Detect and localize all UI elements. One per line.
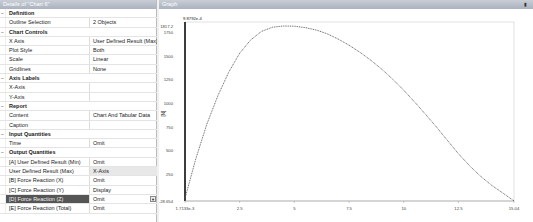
property-name: Gridlines xyxy=(6,65,90,73)
plot-frame xyxy=(185,22,514,201)
property-value-text: Omit xyxy=(93,196,105,202)
property-row[interactable]: ContentChart And Tabular Data xyxy=(0,111,157,120)
category-row[interactable]: −Definition xyxy=(0,9,157,18)
graph-panel-title: Graph xyxy=(162,1,177,7)
property-row[interactable]: [B] Force Reaction (X)Omit xyxy=(0,176,157,185)
category-row[interactable]: −Output Quantities xyxy=(0,148,157,157)
property-row[interactable]: Y-Axis xyxy=(0,93,157,102)
y-tick-label: 750 xyxy=(166,125,174,130)
property-value[interactable]: None xyxy=(90,65,157,73)
property-value[interactable]: 2 Objects xyxy=(90,18,157,26)
pin-icon[interactable]: ▮ xyxy=(524,0,527,9)
property-name: Plot Style xyxy=(6,46,90,54)
property-value-text: 2 Objects xyxy=(93,19,116,25)
y-tick-label: 1000 xyxy=(164,101,174,106)
property-value[interactable]: Omit xyxy=(90,158,157,166)
property-row[interactable]: User Defined Result (Max)X-Axis xyxy=(0,167,157,176)
x-tick-label: 12.5 xyxy=(454,206,463,211)
y-tick-label: 1817.2 xyxy=(160,24,173,29)
property-value[interactable]: Omit xyxy=(90,176,157,184)
details-panel: Details of "Chart 6" −DefinitionOutline … xyxy=(0,0,157,222)
property-value-text: Linear xyxy=(93,56,108,62)
dropdown-arrow-icon[interactable]: ▼ xyxy=(150,196,156,203)
property-value-text: Omit xyxy=(93,140,105,146)
series-line xyxy=(185,26,514,201)
property-value-text: Omit xyxy=(93,205,105,211)
property-value-text: Omit xyxy=(93,159,105,165)
category-label: Definition xyxy=(6,9,156,17)
property-value-text: Omit xyxy=(93,177,105,183)
property-name: Outline Selection xyxy=(6,18,90,26)
category-label: Axis Labels xyxy=(6,74,156,82)
top-label: 9.8792e-4 xyxy=(183,16,203,21)
property-value[interactable]: User Defined Result (Max) xyxy=(90,37,157,45)
property-value[interactable]: Chart And Tabular Data xyxy=(90,111,157,119)
x-tick-label: 7.5 xyxy=(346,206,352,211)
property-row[interactable]: GridlinesNone xyxy=(0,65,157,74)
property-value-text: Display xyxy=(93,187,111,193)
details-panel-title: Details of "Chart 6" xyxy=(0,0,156,9)
y-tick-label: 500 xyxy=(166,148,174,153)
property-row[interactable]: [A] User Defined Result (Min)Omit xyxy=(0,158,157,167)
property-value[interactable]: X-Axis xyxy=(90,167,157,175)
category-row[interactable]: −Input Quantities xyxy=(0,130,157,139)
y-tick-label: 250 xyxy=(166,172,174,177)
property-name: User Defined Result (Max) xyxy=(6,167,90,175)
y-tick-label: 1750 xyxy=(164,30,174,35)
property-name: Caption xyxy=(6,121,90,129)
property-value[interactable] xyxy=(90,93,157,101)
x-tick-label: 2.5 xyxy=(237,206,243,211)
property-value[interactable]: Display xyxy=(90,186,157,194)
property-name: [C] Force Reaction (Y) xyxy=(6,186,90,194)
property-row[interactable]: TimeOmit xyxy=(0,139,157,148)
property-row[interactable]: Outline Selection2 Objects xyxy=(0,18,157,27)
property-row[interactable]: Plot StyleBoth xyxy=(0,46,157,55)
property-name: [D] Force Reaction (Z) xyxy=(6,195,90,203)
category-row[interactable]: −Report xyxy=(0,102,157,111)
y-tick-label: 1250 xyxy=(164,77,174,82)
details-table: −DefinitionOutline Selection2 Objects−Ch… xyxy=(0,9,157,214)
property-name: [E] Force Reaction (Total) xyxy=(6,204,90,212)
property-name: Content xyxy=(6,111,90,119)
property-name: X-Axis xyxy=(6,83,90,91)
category-row[interactable]: −Axis Labels xyxy=(0,74,157,83)
category-label: Output Quantities xyxy=(6,148,156,156)
property-name: [B] Force Reaction (X) xyxy=(6,176,90,184)
property-row[interactable]: Caption xyxy=(0,121,157,130)
property-row[interactable]: [E] Force Reaction (Total)Omit xyxy=(0,204,157,213)
property-value[interactable]: Linear xyxy=(90,55,157,63)
property-value[interactable]: Omit▼ xyxy=(90,195,157,203)
x-tick-label: 1.7133e-3 xyxy=(176,206,196,211)
category-row[interactable]: −Chart Controls xyxy=(0,28,157,37)
property-value-text: None xyxy=(93,66,106,72)
property-row[interactable]: ScaleLinear xyxy=(0,55,157,64)
x-tick-label: 15.04 xyxy=(509,206,520,211)
graph-panel: Graph ▮ 9.8792e-4-28.6542505007501000125… xyxy=(159,0,533,222)
property-name: Scale xyxy=(6,55,90,63)
category-label: Report xyxy=(6,102,156,110)
x-tick-label: 10 xyxy=(401,206,406,211)
x-tick-label: 5 xyxy=(293,206,296,211)
property-name: [A] User Defined Result (Min) xyxy=(6,158,90,166)
property-name: X Axis xyxy=(6,37,90,45)
y-tick-label: -28.654 xyxy=(159,199,174,204)
property-value-text: Chart And Tabular Data xyxy=(93,112,150,118)
category-label: Chart Controls xyxy=(6,28,156,36)
graph-panel-header: Graph ▮ xyxy=(159,0,533,9)
property-value[interactable]: Both xyxy=(90,46,157,54)
property-value-text: Both xyxy=(93,47,104,53)
property-value[interactable] xyxy=(90,83,157,91)
property-row[interactable]: X-Axis xyxy=(0,83,157,92)
property-value-text: X-Axis xyxy=(93,168,109,174)
property-row[interactable]: X AxisUser Defined Result (Max) xyxy=(0,37,157,46)
property-row[interactable]: [C] Force Reaction (Y)Display xyxy=(0,186,157,195)
property-value[interactable]: Omit xyxy=(90,204,157,212)
property-name: Time xyxy=(6,139,90,147)
property-name: Y-Axis xyxy=(6,93,90,101)
property-row[interactable]: [D] Force Reaction (Z)Omit▼ xyxy=(0,195,157,204)
force-reaction-chart: 9.8792e-4-28.654250500750100012501500175… xyxy=(159,9,533,222)
y-axis-label: [N] xyxy=(161,111,166,117)
property-value[interactable]: Omit xyxy=(90,139,157,147)
category-label: Input Quantities xyxy=(6,130,156,138)
property-value[interactable] xyxy=(90,121,157,129)
